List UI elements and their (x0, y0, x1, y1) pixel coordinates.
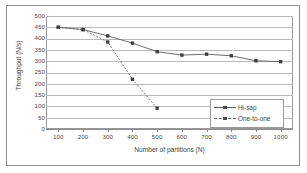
x-tick-mark (256, 129, 257, 132)
x-tick-mark (231, 129, 232, 132)
x-tick-mark (83, 129, 84, 132)
x-tick-mark (58, 129, 59, 132)
legend-swatch-dashed-icon (214, 114, 236, 123)
x-tick-mark (108, 129, 109, 132)
gridline (46, 50, 293, 51)
legend-swatch-solid-icon (214, 103, 236, 112)
x-tick-mark (132, 129, 133, 132)
x-tick-mark (157, 129, 158, 132)
gridline (46, 39, 293, 40)
y-tick-label: 50 (17, 115, 45, 121)
x-tick-mark (182, 129, 183, 132)
gridline (46, 95, 293, 96)
legend-item-one-to-one: One-to-one (214, 113, 280, 124)
gridline (46, 61, 293, 62)
gridline (46, 84, 293, 85)
y-axis-title: Throughput (N/s) (15, 18, 22, 114)
line-chart: 050100150200250300350400450500 100200300… (0, 0, 307, 173)
x-tick-label: 1000 (266, 134, 296, 140)
gridline (46, 16, 293, 17)
chart-legend: Hi-sap One-to-one (210, 99, 284, 128)
x-axis-title: Number of partitions (N) (46, 146, 293, 153)
legend-item-hi-sap: Hi-sap (214, 102, 280, 113)
x-tick-mark (281, 129, 282, 132)
y-tick-label: 0 (17, 126, 45, 132)
legend-label-hi-sap: Hi-sap (236, 104, 256, 111)
x-tick-mark (207, 129, 208, 132)
gridline (46, 73, 293, 74)
figure-root: 050100150200250300350400450500 100200300… (0, 0, 307, 173)
legend-label-one-to-one: One-to-one (236, 115, 270, 122)
gridline (46, 27, 293, 28)
